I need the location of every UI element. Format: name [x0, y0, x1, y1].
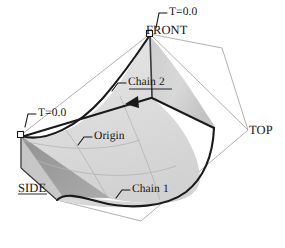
annotation-label-origin: Origin: [94, 131, 125, 143]
annotation-label-chain-two: Chain 2: [128, 77, 165, 89]
annotation-label-t-zero-top: T=0.0: [169, 7, 197, 19]
view-label-side: SIDE: [18, 182, 46, 195]
annotation-label-chain-one: Chain 1: [132, 184, 169, 196]
annotation-label-t-zero-left: T=0.0: [38, 108, 66, 120]
left-start-node-marker: [18, 132, 24, 138]
view-label-top: TOP: [249, 124, 273, 137]
swept-surface-drawing: [0, 0, 285, 248]
figure-container: FRONT TOP SIDE T=0.0 T=0.0 Chain 2 Chain…: [0, 0, 285, 248]
view-label-front: FRONT: [146, 24, 187, 37]
